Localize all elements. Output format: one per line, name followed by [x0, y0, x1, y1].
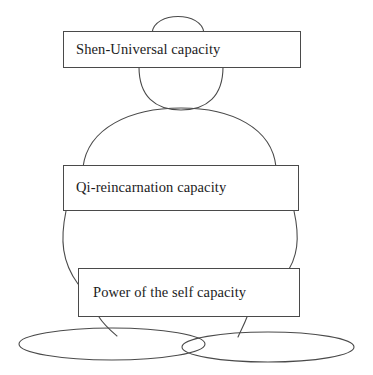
right-foot-ellipse [182, 332, 354, 362]
head-oval [139, 67, 223, 110]
capacity-box-shen-label: Shen-Universal capacity [64, 42, 220, 58]
capacity-box-shen[interactable]: Shen-Universal capacity [63, 31, 301, 68]
capacity-box-power-label: Power of the self capacity [79, 285, 246, 301]
capacity-box-power[interactable]: Power of the self capacity [78, 268, 300, 317]
capacity-box-qi[interactable]: Qi-reincarnation capacity [63, 165, 299, 211]
left-leg [99, 317, 117, 336]
left-body-curve [63, 211, 78, 284]
right-body-curve [285, 211, 297, 275]
left-foot-ellipse [19, 328, 205, 360]
right-leg [238, 317, 247, 337]
torso-shoulder-arc [83, 108, 276, 167]
capacity-diagram: Shen-Universal capacity Qi-reincarnation… [0, 0, 373, 375]
capacity-box-qi-label: Qi-reincarnation capacity [64, 180, 226, 196]
